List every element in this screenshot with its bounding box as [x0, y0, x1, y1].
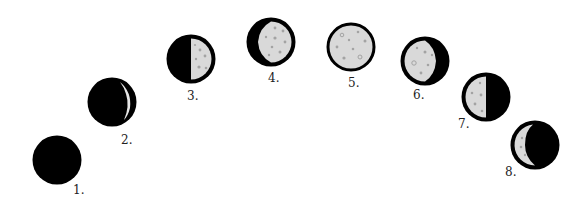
- new-moon-icon: [31, 134, 83, 186]
- waning-gibbous-moon-icon: [399, 35, 451, 87]
- phase-label-6: 6.: [413, 89, 424, 101]
- moon-phase-2: [86, 76, 138, 128]
- moon-phase-4: [245, 16, 297, 68]
- thin-crescent-moon-icon: [86, 76, 138, 128]
- phase-label-7: 7.: [458, 118, 469, 130]
- phase-label-2: 2.: [121, 134, 132, 146]
- moon-phases-diagram: 1. 2. 3.: [0, 0, 588, 202]
- moon-phase-1: [31, 134, 83, 186]
- phase-label-5: 5.: [348, 77, 359, 89]
- waning-crescent-moon-icon: [509, 119, 561, 171]
- first-quarter-moon-icon: [165, 33, 217, 85]
- moon-phase-6: [399, 35, 451, 87]
- moon-phase-7: [460, 71, 512, 123]
- moon-phase-5: [325, 21, 377, 73]
- phase-label-4: 4.: [268, 72, 279, 84]
- full-moon-icon: [325, 21, 377, 73]
- moon-phase-8: [509, 119, 561, 171]
- phase-label-8: 8.: [505, 166, 516, 178]
- waxing-gibbous-moon-icon: [245, 16, 297, 68]
- phase-label-3: 3.: [187, 90, 198, 102]
- moon-phase-3: [165, 33, 217, 85]
- phase-label-1: 1.: [73, 184, 84, 196]
- last-quarter-moon-icon: [460, 71, 512, 123]
